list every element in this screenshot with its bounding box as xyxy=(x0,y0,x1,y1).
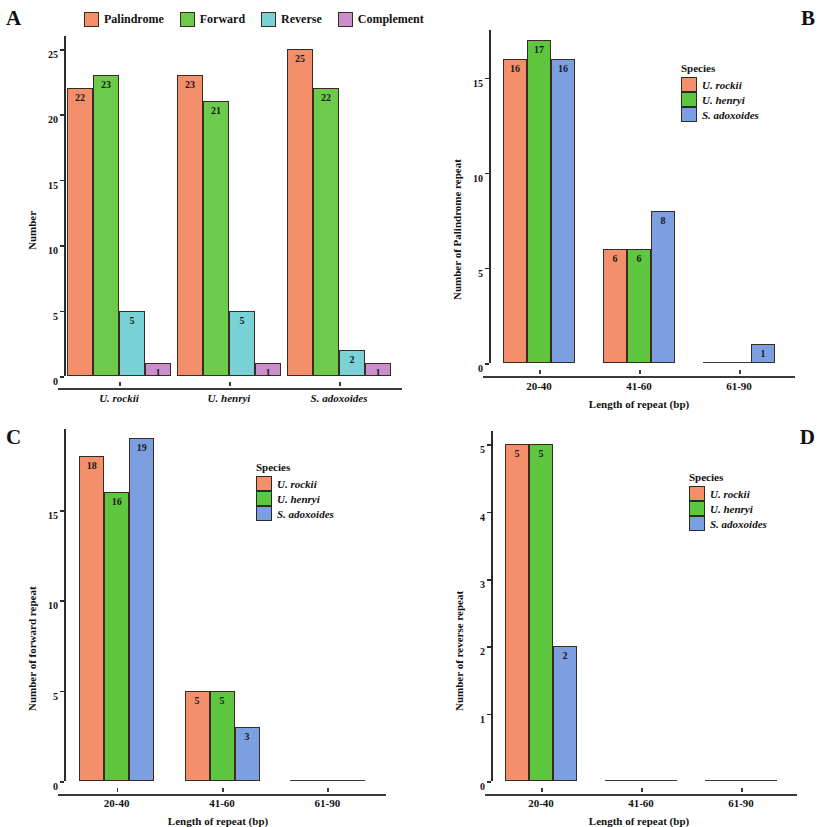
bar-value-label: 19 xyxy=(137,442,147,453)
x-tick-mark xyxy=(541,788,543,792)
bar-value-label: 6 xyxy=(637,253,642,264)
bar-value-label: 5 xyxy=(240,315,245,326)
y-tick-mark xyxy=(60,245,64,247)
x-tick-label: U. henryi xyxy=(208,392,251,404)
panel-c: C SpeciesU. rockiiU. henryiS. adoxoides … xyxy=(0,411,412,824)
bar xyxy=(503,59,527,363)
panel-letter-c: C xyxy=(6,425,21,450)
bar xyxy=(627,249,651,363)
bar-zero xyxy=(340,780,365,782)
bar-value-label: 16 xyxy=(112,496,122,507)
panel-b-x-axis-outer xyxy=(483,376,795,378)
x-tick-mark xyxy=(222,788,224,792)
bar-value-label: 2 xyxy=(563,650,568,661)
bar-zero xyxy=(729,780,753,782)
bar-value-label: 3 xyxy=(245,731,250,742)
panel-b-y-axis-label: Number of Palindrome repeat xyxy=(451,159,463,300)
y-tick-mark xyxy=(485,363,489,365)
panel-d-x-axis-label: Length of repeat (bp) xyxy=(589,815,689,827)
bar-value-label: 18 xyxy=(87,460,97,471)
bar xyxy=(79,456,104,781)
x-tick-mark xyxy=(641,788,643,792)
x-tick-mark xyxy=(229,382,231,386)
x-tick-label: 61-90 xyxy=(728,797,754,809)
legend-label-palindrome: Palindrome xyxy=(104,12,164,27)
x-tick-label: 20-40 xyxy=(528,797,554,809)
x-tick-mark xyxy=(741,788,743,792)
x-tick-label: 41-60 xyxy=(628,797,654,809)
legend-swatch-palindrome xyxy=(84,12,99,27)
legend-swatch-reverse xyxy=(261,12,276,27)
panel-d-x-axis-outer xyxy=(485,794,797,796)
bar xyxy=(651,211,675,363)
bar-value-label: 5 xyxy=(195,695,200,706)
bar-value-label: 5 xyxy=(539,448,544,459)
y-tick-mark xyxy=(487,714,491,716)
legend-label-forward: Forward xyxy=(200,12,245,27)
bar-value-label: 2 xyxy=(350,354,355,365)
y-tick-mark xyxy=(487,781,491,783)
bar-value-label: 22 xyxy=(75,92,85,103)
plot-d-y-axis xyxy=(491,431,493,781)
panel-letter-a: A xyxy=(6,6,21,31)
y-tick-mark xyxy=(60,49,64,51)
y-tick-mark xyxy=(60,311,64,313)
x-tick-label: S. adoxoides xyxy=(311,392,368,404)
y-tick-mark xyxy=(60,600,64,602)
legend-item-reverse: Reverse xyxy=(261,12,322,27)
bar xyxy=(67,88,93,376)
bar-value-label: 1 xyxy=(266,367,271,378)
panel-c-x-axis-outer xyxy=(58,794,386,796)
plot-a-y-axis xyxy=(64,36,66,376)
panel-c-y-axis-label: Number of forward repeat xyxy=(26,586,38,711)
bar-value-label: 23 xyxy=(185,79,195,90)
bar-zero xyxy=(705,780,729,782)
bar-zero xyxy=(605,780,629,782)
bar-value-label: 8 xyxy=(661,215,666,226)
x-tick-mark xyxy=(739,370,741,374)
bar-value-label: 16 xyxy=(558,63,568,74)
panel-a: A PalindromeForwardReverseComplement Num… xyxy=(0,0,412,412)
bar xyxy=(313,88,339,376)
bar-zero xyxy=(703,362,727,364)
bar-value-label: 5 xyxy=(220,695,225,706)
bar-value-label: 5 xyxy=(515,448,520,459)
x-tick-mark xyxy=(539,370,541,374)
panel-c-plot-area: 051015181619553 xyxy=(64,429,380,781)
bar-zero xyxy=(290,780,315,782)
y-tick-mark xyxy=(487,444,491,446)
x-tick-mark xyxy=(327,788,329,792)
x-tick-mark xyxy=(339,382,341,386)
x-tick-label: 20-40 xyxy=(104,797,130,809)
bar-value-label: 22 xyxy=(321,92,331,103)
y-tick-mark xyxy=(487,646,491,648)
x-tick-mark xyxy=(639,370,641,374)
bar-zero xyxy=(629,780,653,782)
plot-c-y-axis xyxy=(64,429,66,781)
bar xyxy=(93,75,119,376)
panel-b-plot-area: 0510151617166681 xyxy=(489,30,789,363)
panel-d-plot-area: 012345552 xyxy=(491,431,791,781)
bar-value-label: 6 xyxy=(613,253,618,264)
y-tick-mark xyxy=(60,376,64,378)
x-tick-label: 41-60 xyxy=(626,380,652,392)
bar xyxy=(203,101,229,376)
x-tick-label: 61-90 xyxy=(726,380,752,392)
legend-item-forward: Forward xyxy=(180,12,245,27)
panel-c-x-axis-label: Length of repeat (bp) xyxy=(168,815,268,827)
panel-letter-d: D xyxy=(800,425,815,450)
panel-b: B SpeciesU. rockiiU. henryiS. adoxoides … xyxy=(411,0,823,412)
bar-value-label: 25 xyxy=(295,53,305,64)
x-tick-mark xyxy=(117,788,119,792)
bar xyxy=(529,444,553,781)
plot-b-y-axis xyxy=(489,30,491,363)
bar-zero xyxy=(653,780,677,782)
bar xyxy=(104,492,129,781)
bar-zero xyxy=(727,362,751,364)
y-tick-mark xyxy=(487,579,491,581)
bar-value-label: 23 xyxy=(101,79,111,90)
x-tick-label: 61-90 xyxy=(314,797,340,809)
bar-value-label: 17 xyxy=(534,44,544,55)
bar-value-label: 1 xyxy=(761,348,766,359)
